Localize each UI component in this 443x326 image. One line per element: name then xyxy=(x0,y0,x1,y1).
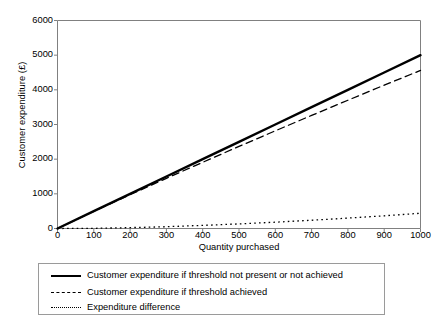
x-tick-label: 400 xyxy=(195,231,211,240)
x-tick-label: 700 xyxy=(304,231,320,240)
x-tick-label: 300 xyxy=(159,231,175,240)
y-tick-label: 1000 xyxy=(13,189,53,198)
x-tick-label: 200 xyxy=(122,231,138,240)
y-tick-label: 3000 xyxy=(13,120,53,129)
legend-label: Customer expenditure if threshold not pr… xyxy=(83,270,343,280)
legend-entry-threshold-not-present: Customer expenditure if threshold not pr… xyxy=(39,267,384,282)
y-tick-label: 6000 xyxy=(13,16,53,25)
dotted-line-sample xyxy=(49,301,83,313)
y-tick-label: 4000 xyxy=(13,85,53,94)
dashed-line-sample xyxy=(49,286,83,298)
legend-label: Customer expenditure if threshold achiev… xyxy=(83,287,267,297)
x-tick-label: 1000 xyxy=(410,231,431,240)
chart-legend: Customer expenditure if threshold not pr… xyxy=(38,263,385,315)
x-tick-label: 900 xyxy=(376,231,392,240)
solid-line-sample xyxy=(49,269,83,281)
y-tick-label: 5000 xyxy=(13,51,53,60)
series-line-1 xyxy=(58,70,421,228)
legend-entry-threshold-achieved: Customer expenditure if threshold achiev… xyxy=(39,284,384,299)
legend-label: Expenditure difference xyxy=(83,302,180,312)
x-tick-label: 500 xyxy=(231,231,247,240)
x-tick-label: 800 xyxy=(340,231,356,240)
y-tick-label: 2000 xyxy=(13,155,53,164)
series-line-2 xyxy=(58,213,421,228)
y-tick-label: 0 xyxy=(13,224,53,233)
x-axis-label: Quantity purchased xyxy=(57,242,421,252)
x-tick-label: 600 xyxy=(268,231,284,240)
chart-figure: Customer expenditure (£) 010002000300040… xyxy=(0,0,443,326)
x-tick-label: 100 xyxy=(86,231,102,240)
x-tick-label: 0 xyxy=(55,231,60,240)
legend-entry-expenditure-difference: Expenditure difference xyxy=(39,299,384,314)
